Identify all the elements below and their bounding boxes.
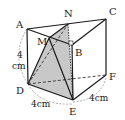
shaded-section [28,24,73,100]
label-b: B [75,47,82,58]
label-e: E [69,106,76,117]
label-a: A [15,19,24,30]
prism-diagram: A N C M B D E F 4 cm 4cm 4cm [0,0,125,120]
measure-de: 4cm [31,99,51,109]
right-angle-marker [69,41,73,45]
label-n: N [64,8,73,19]
measure-ef: 4cm [89,93,109,103]
label-d: D [16,85,24,96]
measure-ad-unit: cm [12,61,26,71]
label-f: F [109,71,116,82]
measure-ad-num: 4 [17,50,23,60]
label-c: C [109,6,117,17]
label-m: M [37,36,47,47]
